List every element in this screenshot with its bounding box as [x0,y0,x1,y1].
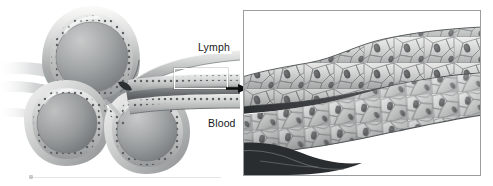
magnified-endothelium-panel [243,10,481,176]
figure-lymph-blood-capillary: Lymph Blood [0,0,493,186]
label-lymph: Lymph [196,41,232,54]
label-blood: Blood [206,117,238,130]
baseline-rule-marker [29,175,33,179]
magnified-region-callout [174,68,228,89]
vessel-cluster-overview [0,0,240,186]
baseline-rule [33,177,221,178]
overview-artwork [0,0,240,186]
vessel-cross-section-left [24,80,110,166]
inset-artwork [244,11,480,175]
